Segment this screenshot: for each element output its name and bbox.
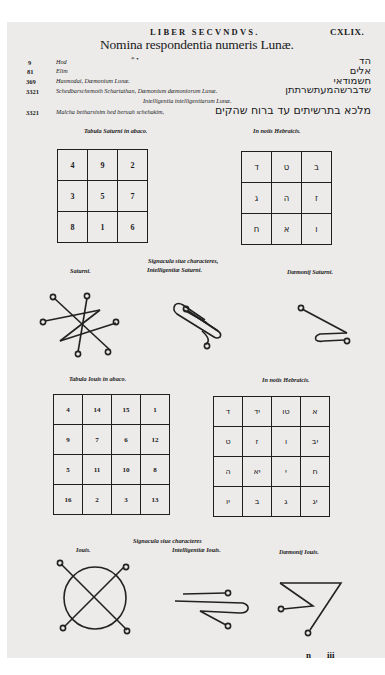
jupiter-seal-icon: [57, 560, 129, 633]
jupiter-intelligence-seal-icon: [175, 590, 248, 628]
jupiter-seals: [0, 0, 385, 675]
jupiter-demon-seal-icon: [278, 583, 341, 636]
signature-number: iii: [327, 650, 335, 660]
signature-letter: n: [306, 650, 311, 660]
